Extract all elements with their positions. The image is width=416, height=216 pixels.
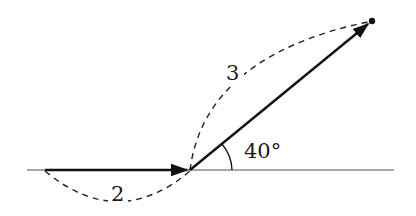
endpoint-dot: [369, 18, 375, 24]
vector-diagram: 2 3 40°: [0, 0, 416, 216]
angle-label: 40°: [244, 139, 281, 163]
length-label-first: 2: [111, 182, 124, 206]
length-label-second: 3: [226, 61, 239, 85]
angle-arc: [222, 144, 232, 170]
